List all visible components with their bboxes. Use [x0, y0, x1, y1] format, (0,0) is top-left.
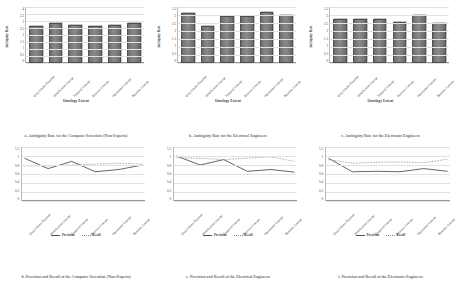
grid-line — [26, 42, 144, 43]
y-axis-ticks: 1.210.80.60.40.20 — [158, 147, 171, 201]
grid-line — [330, 55, 449, 56]
caption-a: a. Ambiguity Rate for the Computer Scien… — [6, 133, 146, 138]
x-axis-title: Ontology Extent — [304, 99, 457, 103]
grid-line — [178, 7, 296, 8]
recall-line-swatch — [82, 235, 91, 236]
bar-chart-c: Ambiguity Rate 3.532.521.510.50 Query's … — [304, 0, 457, 141]
plot-area — [173, 147, 297, 201]
legend-item-recall: Recall — [82, 233, 101, 237]
grid-line — [330, 39, 449, 40]
y-tick-label: 0 — [321, 197, 323, 201]
caption-c: c. Ambiguity Rate for the Electronic Eng… — [310, 133, 451, 138]
x-axis-category-labels: Query's Basic ElementsIdentification Con… — [329, 64, 449, 98]
y-axis-ticks: 3.532.521.510.50 — [163, 7, 176, 63]
caption-e: e. Precision and Recall of the Electrica… — [158, 274, 298, 279]
line-chart-f: 1.210.80.60.40.20 Query's Basic Elements… — [304, 141, 457, 282]
subfigure-e: 1.210.80.60.40.20 Query's Basic Elements… — [152, 141, 304, 282]
grid-line — [174, 192, 297, 193]
precision-line-swatch — [356, 235, 365, 236]
line-chart-d: 1.210.80.60.40.20 Query's Basic Elements… — [0, 141, 152, 282]
y-tick-label: 1.2 — [15, 147, 19, 151]
grid-line — [326, 147, 450, 148]
y-axis-ticks: 3.532.521.510.50 — [315, 7, 328, 63]
grid-line — [178, 15, 296, 16]
x-tick-label: Modality Concept — [436, 80, 454, 98]
x-axis-title: Ontology Extent — [152, 99, 304, 103]
y-tick-label: 1 — [169, 155, 171, 159]
y-tick-label: 1 — [326, 44, 328, 48]
y-tick-label: 0.4 — [167, 180, 171, 184]
y-tick-label: 0.8 — [319, 164, 323, 168]
subfigure-c: Ambiguity Rate 3.532.521.510.50 Query's … — [304, 0, 457, 141]
y-tick-label: 1.5 — [324, 37, 328, 41]
grid-line — [330, 7, 449, 8]
recall-line — [328, 159, 447, 163]
line-chart-e: 1.210.80.60.40.20 Query's Basic Elements… — [152, 141, 304, 282]
y-tick-label: 0.4 — [15, 180, 19, 184]
y-tick-label: 2.5 — [20, 27, 24, 31]
grid-line — [26, 21, 144, 22]
y-tick-label: 0 — [22, 59, 24, 63]
subfigure-d: 1.210.80.60.40.20 Query's Basic Elements… — [0, 141, 152, 282]
grid-line — [174, 174, 297, 175]
x-tick-label: Resource Concept — [92, 79, 111, 98]
y-tick-label: 3 — [22, 20, 24, 24]
y-tick-label: 1 — [321, 155, 323, 159]
y-tick-label: 0.6 — [15, 172, 19, 176]
grid-line — [330, 23, 449, 24]
y-axis-ticks: 43.532.521.510.50 — [11, 7, 24, 63]
bar — [88, 26, 102, 63]
grid-line — [330, 15, 449, 16]
y-tick-label: 0.8 — [15, 164, 19, 168]
precision-line-swatch — [203, 235, 212, 236]
grid-line — [26, 7, 144, 8]
grid-line — [26, 49, 144, 50]
x-axis-title: Ontology Extent — [0, 99, 152, 103]
subfigure-a: Ambiguity Rate 43.532.521.510.50 Query's… — [0, 0, 152, 141]
legend-label-precision: Precision — [214, 233, 227, 237]
legend-item-precision: Precision — [203, 233, 226, 237]
grid-line — [330, 47, 449, 48]
bar-chart-a: Ambiguity Rate 43.532.521.510.50 Query's… — [0, 0, 152, 141]
grid-line — [26, 35, 144, 36]
legend-label-recall: Recall — [397, 233, 406, 237]
bar — [432, 23, 446, 63]
grid-line — [174, 183, 297, 184]
y-tick-label: 0.2 — [167, 189, 171, 193]
x-tick-label: Operational Concept — [416, 77, 437, 98]
y-tick-label: 0.6 — [319, 172, 323, 176]
grid-line — [178, 23, 296, 24]
bar — [68, 25, 82, 63]
x-tick-label: Temporal Concept — [72, 79, 91, 98]
bar — [29, 26, 43, 63]
grid-line — [22, 165, 145, 166]
y-axis-ticks: 1.210.80.60.40.20 — [310, 147, 323, 201]
chart-legend: Precision Recall — [304, 233, 457, 237]
chart-legend: Precision Recall — [152, 233, 304, 237]
legend-label-recall: Recall — [92, 233, 101, 237]
x-tick-label: Operational Concept — [111, 77, 132, 98]
figure-panel-grid: Ambiguity Rate 43.532.521.510.50 Query's… — [0, 0, 457, 282]
y-tick-label: 1 — [174, 44, 176, 48]
y-tick-label: 2 — [22, 33, 24, 37]
plot-area — [21, 147, 145, 201]
y-tick-label: 3 — [326, 14, 328, 18]
legend-label-precision: Precision — [366, 233, 379, 237]
caption-f: f. Precision and Recall of the Electroni… — [310, 274, 451, 279]
x-tick-label: Temporal Concept — [376, 79, 395, 98]
x-axis-category-labels: Query's Basic ElementsIdentification Con… — [173, 202, 297, 236]
grid-line — [174, 156, 297, 157]
grid-line — [22, 174, 145, 175]
y-tick-label: 1.2 — [167, 147, 171, 151]
y-tick-label: 0 — [326, 59, 328, 63]
plot-area — [329, 7, 449, 63]
legend-item-precision: Precision — [51, 233, 74, 237]
x-tick-label: Temporal Concept — [224, 79, 243, 98]
legend-item-precision: Precision — [356, 233, 379, 237]
y-tick-label: 3.5 — [172, 7, 176, 11]
plot-area — [325, 147, 450, 201]
y-tick-label: 0.8 — [167, 164, 171, 168]
y-tick-label: 1 — [17, 155, 19, 159]
chart-legend: Precision Recall — [0, 233, 152, 237]
grid-line — [326, 156, 450, 157]
